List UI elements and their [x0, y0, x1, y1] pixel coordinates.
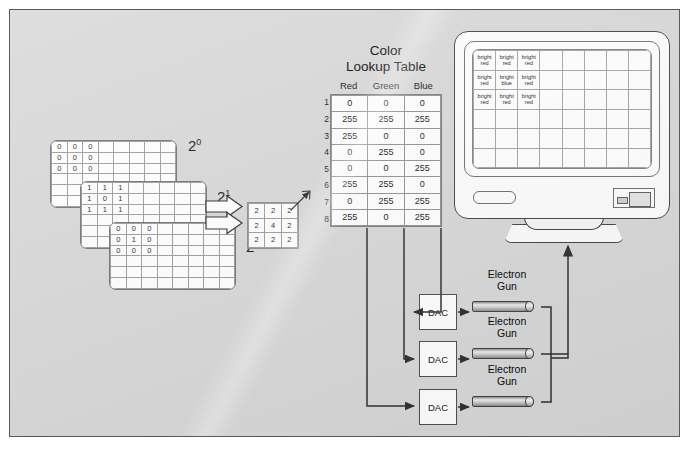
diagram-panel: 000000000 20 111101111 21 000010000 22 2…: [9, 9, 680, 437]
guns-to-monitor-bus: [541, 246, 568, 402]
wire-blue-to-dac: [414, 228, 441, 312]
clut-to-dac-wires: [367, 228, 441, 406]
connection-lines: [10, 10, 680, 437]
wire-red-to-dac: [367, 228, 414, 406]
dac-to-gun-arrows: [458, 312, 469, 407]
block-arrow-planes-to-matrix: [206, 196, 242, 234]
wire-green-to-dac: [404, 228, 414, 359]
arrow-matrix-to-clut: [291, 191, 310, 210]
